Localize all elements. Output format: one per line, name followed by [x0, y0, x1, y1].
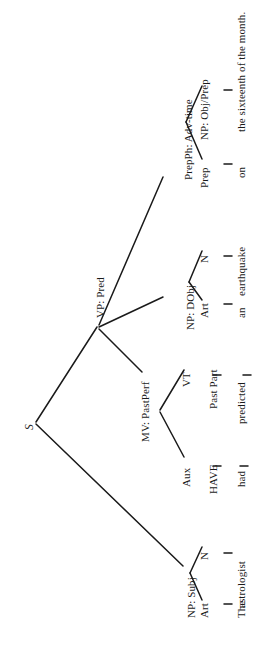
node-vt: VT [181, 372, 192, 387]
word-sixteenth-phrase: the sixteenth of the month. [236, 12, 247, 132]
node-np-subj: NP: Subj [186, 577, 197, 618]
node-s-root: S [24, 424, 36, 430]
node-art-dobj: Art [199, 303, 210, 318]
node-art-subject: Art [199, 603, 210, 618]
edge-s-to-np-subj [36, 424, 183, 566]
word-an: an [236, 307, 247, 318]
node-prepph-adv-time: PrepPh: Adv-time [183, 99, 194, 180]
node-np-obj-prep: NP: Obj/Prep [199, 79, 210, 140]
node-np-dobj: NP: DObj [185, 285, 196, 330]
word-had: had [236, 471, 247, 487]
edge-vp-to-mv [99, 329, 142, 372]
node-aux: Aux [181, 468, 192, 487]
edge-mv-to-aux [160, 412, 184, 457]
node-vp-pred: VP: Pred [95, 277, 106, 318]
edge-s-to-vp-pred [36, 327, 97, 422]
word-astrologist: astrologist [236, 561, 247, 608]
syntax-tree-diagram: S VP: Pred NP: Subj MV: PastPerf NP: DOb… [0, 0, 261, 665]
node-have: HAVE [208, 464, 219, 494]
node-n-subject: N [199, 552, 210, 560]
tree-edges [0, 0, 261, 665]
node-past-part: Past Part [208, 369, 219, 409]
word-on: on [236, 167, 247, 178]
node-n-dobj: N [199, 255, 210, 263]
edge-np-subj-to-n [190, 547, 202, 573]
node-prep: Prep [199, 167, 210, 188]
word-predicted: predicted [236, 382, 247, 424]
word-earthquake: earthquake [236, 247, 247, 296]
node-mv-pastperf: MV: PastPerf [140, 381, 151, 442]
edge-vp-to-prepph [99, 177, 163, 325]
